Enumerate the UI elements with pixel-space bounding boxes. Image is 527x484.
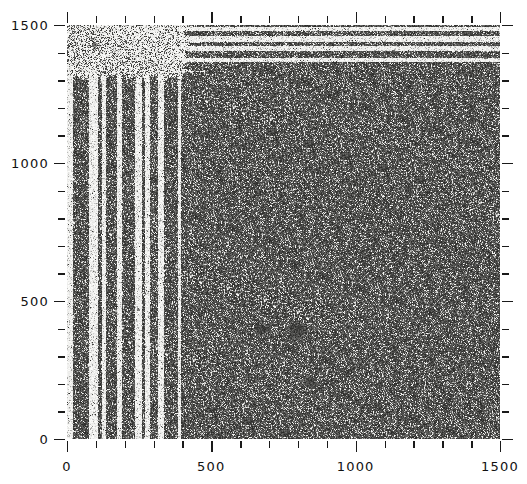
axis-tick bbox=[58, 218, 65, 219]
axis-tick bbox=[58, 273, 65, 274]
axis-tick bbox=[211, 12, 212, 23]
astronomical-plate-figure: 050010001500 050010001500 bbox=[0, 0, 527, 484]
y-tick-label: 500 bbox=[21, 294, 49, 309]
axis-tick bbox=[58, 135, 65, 136]
axis-tick bbox=[502, 108, 509, 109]
x-tick-label: 1000 bbox=[337, 459, 375, 474]
axis-tick bbox=[240, 441, 241, 448]
axis-tick bbox=[502, 218, 509, 219]
axis-tick bbox=[54, 163, 65, 164]
axis-tick bbox=[269, 441, 270, 448]
x-tick-label: 0 bbox=[62, 459, 71, 474]
axis-tick bbox=[502, 301, 513, 302]
axis-tick bbox=[211, 441, 212, 452]
axis-tick bbox=[125, 441, 126, 448]
axis-tick bbox=[54, 439, 65, 440]
axis-tick bbox=[58, 80, 65, 81]
x-tick-label: 1500 bbox=[481, 459, 519, 474]
axis-tick bbox=[442, 16, 443, 23]
axis-tick bbox=[500, 12, 501, 23]
axis-tick bbox=[240, 16, 241, 23]
axis-tick bbox=[413, 16, 414, 23]
axis-tick bbox=[58, 384, 65, 385]
axis-tick bbox=[154, 16, 155, 23]
axis-tick bbox=[502, 384, 509, 385]
axis-tick bbox=[58, 53, 65, 54]
axis-tick bbox=[471, 16, 472, 23]
axis-tick bbox=[58, 411, 65, 412]
axis-tick bbox=[58, 191, 65, 192]
axis-tick bbox=[125, 16, 126, 23]
x-tick-label: 500 bbox=[197, 459, 225, 474]
axis-tick bbox=[58, 108, 65, 109]
y-tick-label: 1000 bbox=[11, 156, 49, 171]
axis-tick bbox=[502, 356, 509, 357]
axis-tick bbox=[58, 246, 65, 247]
axis-tick bbox=[327, 441, 328, 448]
axis-tick bbox=[502, 53, 509, 54]
axis-tick bbox=[385, 441, 386, 448]
axis-tick bbox=[356, 12, 357, 23]
axis-tick bbox=[298, 16, 299, 23]
axis-tick bbox=[182, 16, 183, 23]
axis-tick bbox=[502, 163, 513, 164]
axis-tick bbox=[54, 25, 65, 26]
axis-tick bbox=[182, 441, 183, 448]
sky-image-canvas[interactable] bbox=[67, 25, 500, 439]
axis-tick bbox=[269, 16, 270, 23]
axis-tick bbox=[58, 329, 65, 330]
axis-tick bbox=[413, 441, 414, 448]
axis-tick bbox=[502, 439, 513, 440]
axis-tick bbox=[502, 329, 509, 330]
y-tick-label: 0 bbox=[40, 432, 49, 447]
axis-tick bbox=[502, 135, 509, 136]
axis-tick bbox=[67, 441, 68, 452]
axis-tick bbox=[356, 441, 357, 452]
axis-tick bbox=[502, 246, 509, 247]
axis-tick bbox=[502, 191, 509, 192]
axis-tick bbox=[502, 25, 513, 26]
axis-tick bbox=[298, 441, 299, 448]
axis-tick bbox=[442, 441, 443, 448]
axis-tick bbox=[154, 441, 155, 448]
axis-tick bbox=[502, 411, 509, 412]
axis-tick bbox=[500, 441, 501, 452]
sky-image[interactable] bbox=[67, 25, 500, 439]
axis-tick bbox=[96, 16, 97, 23]
axis-tick bbox=[385, 16, 386, 23]
axis-tick bbox=[502, 80, 509, 81]
axis-tick bbox=[67, 12, 68, 23]
axis-tick bbox=[96, 441, 97, 448]
axis-tick bbox=[327, 16, 328, 23]
axis-tick bbox=[54, 301, 65, 302]
axis-tick bbox=[471, 441, 472, 448]
axis-tick bbox=[58, 356, 65, 357]
y-tick-label: 1500 bbox=[11, 18, 49, 33]
axis-tick bbox=[502, 273, 509, 274]
